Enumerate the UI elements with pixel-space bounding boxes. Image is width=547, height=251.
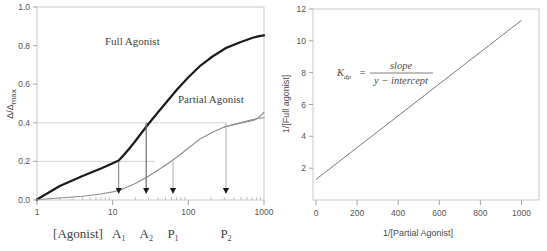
x-axis-tick-labels: 1 10 100 1000 [35, 207, 274, 217]
y-axis-title-text: 1/[Full agonist] [281, 75, 291, 134]
y-axis-tick-labels: 0.0 0.2 0.4 0.6 0.8 1.0 [18, 2, 30, 205]
y-axis-title-main: Δ/Δ [5, 104, 15, 119]
y-axis-ticks [33, 7, 37, 200]
x-tick-1: 1 [35, 207, 40, 217]
y-tick-12: 12 [297, 4, 307, 14]
svg-text:Δ/Δmax: Δ/Δmax [5, 89, 18, 119]
x-tick-200: 200 [350, 208, 364, 218]
y-tick-4: 4 [301, 131, 306, 141]
y-axis-ticks [309, 9, 313, 168]
equation-lhs-sub: dp [344, 73, 352, 81]
marker-label-P2-sub: 2 [228, 234, 232, 243]
y-axis-title-sub: max [9, 89, 18, 104]
label-partial-agonist: Partial Agonist [178, 93, 244, 105]
plot-area-border [313, 9, 539, 200]
y-tick-0: 0.0 [18, 195, 30, 205]
figure-container: 0.0 0.2 0.4 0.6 0.8 1.0 Δ/Δmax [0, 0, 547, 251]
x-tick-400: 400 [391, 208, 405, 218]
marker-label-P2: P2 [220, 226, 231, 243]
marker-label-P1: P1 [167, 226, 178, 243]
marker-label-A2: A2 [140, 226, 153, 243]
y-axis-tick-labels: 12 10 8 6 4 2 [297, 4, 307, 173]
y-tick-5: 1.0 [18, 2, 30, 12]
equation-equals: = [359, 67, 366, 78]
x-tick-1000: 1000 [255, 207, 274, 217]
marker-label-A1-sub: 1 [121, 234, 125, 243]
equation-denominator: y − intercept [373, 75, 429, 86]
label-full-agonist: Full Agonist [105, 35, 160, 47]
y-tick-2: 2 [301, 163, 306, 173]
y-tick-3: 0.6 [18, 79, 30, 89]
y-tick-2: 0.4 [18, 118, 30, 128]
y-axis-title: 1/[Full agonist] [281, 75, 291, 134]
y-axis-title: Δ/Δmax [5, 89, 18, 119]
double-reciprocal-chart: 12 10 8 6 4 2 1/[Full agonist] 0 [275, 0, 547, 251]
panel-dose-response: 0.0 0.2 0.4 0.6 0.8 1.0 Δ/Δmax [0, 0, 280, 251]
y-tick-8: 8 [301, 68, 306, 78]
x-axis-ticks [316, 200, 522, 205]
x-axis-major-ticks [37, 200, 264, 205]
y-tick-10: 10 [297, 36, 307, 46]
y-tick-6: 6 [301, 100, 306, 110]
marker-label-P1-base: P [167, 226, 174, 241]
marker-label-P1-sub: 1 [175, 234, 179, 243]
x-tick-1000: 1000 [512, 208, 531, 218]
x-axis-tick-labels: 0 200 400 600 800 1000 [314, 208, 532, 218]
marker-label-P2-base: P [220, 226, 227, 241]
dose-response-chart: 0.0 0.2 0.4 0.6 0.8 1.0 Δ/Δmax [0, 0, 280, 251]
equation-numerator: slope [390, 60, 413, 71]
panel-double-reciprocal: 12 10 8 6 4 2 1/[Full agonist] 0 [275, 0, 547, 251]
x-axis-title: [Agonist] [53, 226, 103, 241]
x-tick-600: 600 [432, 208, 446, 218]
y-tick-4: 0.8 [18, 41, 30, 51]
x-tick-800: 800 [473, 208, 487, 218]
y-tick-1: 0.2 [18, 156, 30, 166]
x-tick-100: 100 [181, 207, 195, 217]
x-axis-title: 1/[Partial Agonist] [383, 228, 453, 238]
marker-label-A2-sub: 2 [149, 234, 153, 243]
marker-label-A1: A1 [112, 226, 125, 243]
x-tick-0: 0 [314, 208, 319, 218]
x-tick-10: 10 [108, 207, 118, 217]
